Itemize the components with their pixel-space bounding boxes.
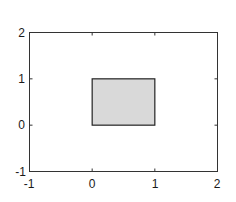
y-tick-label: -1 bbox=[15, 165, 26, 179]
x-tick-label: 1 bbox=[152, 177, 159, 191]
x-tick-label: 0 bbox=[89, 177, 96, 191]
y-tick-label: 0 bbox=[18, 118, 25, 132]
chart: -1 0 1 2 -1 0 1 2 bbox=[0, 0, 236, 202]
rectangle-patch bbox=[92, 79, 155, 125]
y-tick-labels: -1 0 1 2 bbox=[15, 26, 26, 179]
y-tick-label: 1 bbox=[18, 72, 25, 86]
x-tick-label: 2 bbox=[214, 177, 221, 191]
y-tick-label: 2 bbox=[18, 26, 25, 40]
x-tick-labels: -1 0 1 2 bbox=[24, 177, 221, 191]
x-tick-label: -1 bbox=[24, 177, 35, 191]
